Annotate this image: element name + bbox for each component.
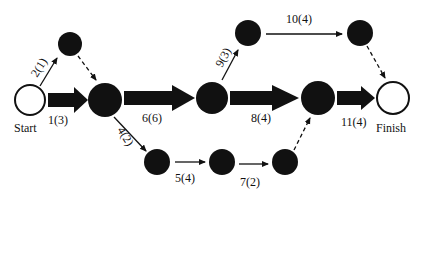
node-3 (196, 82, 228, 114)
dummy-arrow-2 (294, 118, 310, 150)
node-1 (58, 32, 82, 56)
node-4 (235, 20, 261, 46)
activity-label-7: 7(2) (240, 175, 260, 189)
activity-label-9: 9(3) (212, 45, 234, 69)
node-8 (209, 149, 235, 175)
activity-label-6: 6(6) (142, 111, 162, 125)
start-label: Start (14, 121, 37, 135)
activity-label-5: 5(4) (175, 171, 195, 185)
arrow-8 (230, 85, 299, 111)
start-node (15, 85, 45, 115)
activity-label-11: 11(4) (341, 115, 367, 129)
arrow-6 (124, 85, 195, 111)
node-7 (144, 149, 170, 175)
activity-label-10: 10(4) (286, 12, 312, 26)
finish-label: Finish (376, 121, 406, 135)
dummy-arrow-3 (367, 46, 385, 78)
activity-label-4: 4(2) (114, 124, 136, 148)
activity-label-1: 1(3) (48, 113, 68, 127)
finish-node (377, 82, 409, 114)
arrow-1 (48, 87, 88, 113)
arrow-11 (337, 86, 375, 110)
node-2 (88, 83, 122, 117)
dummy-arrow-1 (78, 56, 96, 80)
activity-label-8: 8(4) (251, 111, 271, 125)
node-6 (301, 81, 335, 115)
network-diagram: Start Finish 1(3) 2(1) 4(2) 5(4) 6(6) 7(… (0, 0, 424, 255)
node-5 (347, 20, 373, 46)
node-9 (272, 149, 298, 175)
